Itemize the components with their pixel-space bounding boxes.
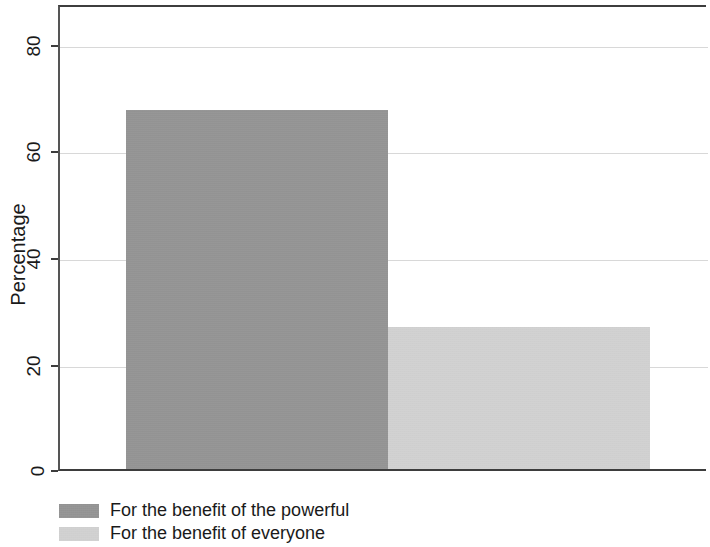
bar-texture (126, 110, 388, 469)
y-tick-label-20: 20 (0, 355, 44, 377)
legend-label-powerful: For the benefit of the powerful (110, 500, 349, 521)
y-tick-label-0: 0 (0, 460, 44, 482)
legend-swatch-texture (59, 527, 99, 541)
chart-legend: For the benefit of the powerful For the … (59, 500, 679, 546)
legend-swatch-powerful (59, 504, 99, 518)
bar-texture (388, 327, 650, 469)
y-tick-mark-20 (51, 365, 58, 367)
legend-label-everyone: For the benefit of everyone (110, 523, 325, 544)
legend-item-powerful: For the benefit of the powerful (59, 500, 679, 521)
y-tick-mark-40 (51, 258, 58, 260)
bar-for-the-benefit-of-the-powerful (126, 110, 388, 469)
legend-item-everyone: For the benefit of everyone (59, 523, 679, 544)
plot-area (58, 5, 706, 471)
bar-for-the-benefit-of-everyone (388, 327, 650, 469)
y-tick-mark-0 (51, 470, 58, 472)
y-tick-label-60: 60 (0, 141, 44, 163)
y-tick-label-80: 80 (0, 35, 44, 57)
y-tick-mark-60 (51, 151, 58, 153)
y-tick-mark-80 (51, 45, 58, 47)
gridline-80 (60, 47, 708, 48)
bar-chart-figure: Percentage 80 60 40 20 0 For the benefit… (0, 0, 710, 547)
legend-swatch-texture (59, 504, 99, 518)
legend-swatch-everyone (59, 527, 99, 541)
y-tick-label-40: 40 (0, 248, 44, 270)
